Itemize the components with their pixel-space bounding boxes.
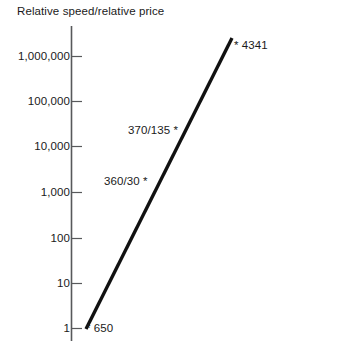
- data-point-label-370-135: 370/135 *: [128, 124, 178, 136]
- data-point-label-4341: * 4341: [234, 39, 268, 51]
- chart-container: Relative speed/relative price 1,000,000 …: [0, 0, 349, 341]
- y-tick-label-100: 100: [51, 232, 71, 244]
- y-tick-label-10: 10: [57, 277, 70, 289]
- y-tick-label-100000: 100,000: [28, 95, 70, 107]
- y-tick-label-10000: 10,000: [34, 140, 70, 152]
- data-point-label-360-30: 360/30 *: [104, 175, 148, 187]
- y-tick-label-1000: 1,000: [41, 186, 70, 198]
- data-point-label-650: * 650: [86, 322, 113, 334]
- y-tick-label-1000000: 1,000,000: [18, 50, 70, 62]
- y-tick-label-1: 1: [64, 322, 71, 334]
